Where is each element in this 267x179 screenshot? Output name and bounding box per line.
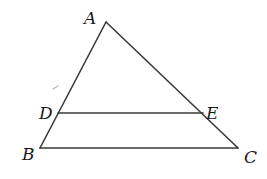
- segment-ac: [106, 22, 238, 148]
- label-a: A: [82, 8, 96, 28]
- triangle-diagram: A D E B C: [0, 0, 267, 179]
- label-d: D: [38, 103, 53, 123]
- label-c: C: [244, 147, 257, 167]
- segment-ab: [40, 22, 106, 148]
- label-b: B: [21, 144, 35, 164]
- label-e: E: [205, 103, 219, 123]
- stray-mark: [53, 86, 58, 89]
